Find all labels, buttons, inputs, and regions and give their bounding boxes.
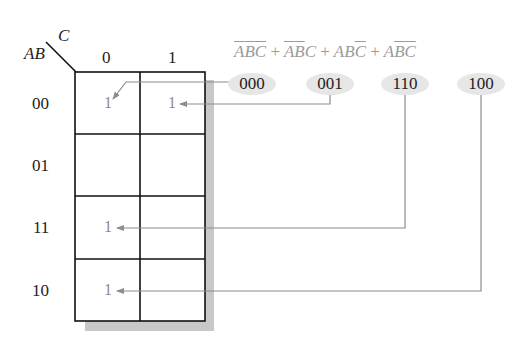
minterm-100: 100	[457, 73, 505, 95]
column-variable-label: C	[58, 26, 69, 46]
row-variable-label: AB	[24, 44, 45, 64]
term-1: ABC	[234, 42, 266, 61]
term-3: ABC	[334, 42, 366, 61]
grid-shadow-right	[205, 80, 214, 331]
term-4: ABC	[384, 42, 416, 61]
expression: ABC + ABC + ABC + ABC	[234, 42, 416, 62]
row-header-00: 00	[32, 94, 49, 114]
row-header-11: 11	[33, 218, 49, 238]
plus-1: +	[270, 42, 280, 61]
minterm-001: 001	[306, 73, 354, 95]
cell-00-0: 1	[104, 94, 112, 112]
term-2: ABC	[284, 42, 316, 61]
plus-2: +	[320, 42, 330, 61]
cell-10-0: 1	[104, 281, 112, 299]
row-header-01: 01	[32, 156, 49, 176]
minterm-110: 110	[381, 73, 429, 95]
col-header-0: 0	[102, 48, 111, 68]
cell-00-1: 1	[168, 94, 176, 112]
cell-11-0: 1	[104, 218, 112, 236]
plus-3: +	[370, 42, 380, 61]
col-header-1: 1	[168, 48, 177, 68]
row-header-10: 10	[32, 281, 49, 301]
corner-diagonal	[46, 42, 76, 72]
grid-shadow-bottom	[85, 321, 214, 331]
minterm-000: 000	[228, 73, 276, 95]
